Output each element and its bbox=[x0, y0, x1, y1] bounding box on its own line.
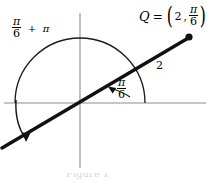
angle-fraction: π 6 bbox=[117, 77, 126, 100]
sweep-denominator: 6 bbox=[12, 27, 21, 39]
point-q-name: Q bbox=[139, 10, 150, 23]
point-q-marker bbox=[185, 33, 192, 40]
polar-coordinate-diagram: π 6 + π Q = ( 2 , π 6 ) π 6 2 Figure 1 bbox=[0, 0, 209, 183]
sweep-pi-term: π bbox=[43, 24, 50, 34]
point-q-label: Q = ( 2 , π 6 ) bbox=[139, 5, 208, 28]
terminal-ray bbox=[2, 37, 190, 148]
point-q-close-paren: ) bbox=[200, 6, 206, 26]
point-q-angle-numerator: π bbox=[189, 4, 198, 15]
caption-strip: Figure 1 bbox=[0, 173, 209, 183]
sweep-operator: + bbox=[25, 24, 39, 34]
point-q-open-paren: ( bbox=[167, 6, 173, 26]
sweep-angle-label: π 6 + π bbox=[12, 17, 49, 40]
angle-numerator: π bbox=[117, 77, 126, 88]
point-q-equals: = bbox=[153, 11, 163, 23]
point-q-coordinates: 2 , π 6 bbox=[175, 5, 199, 28]
angle-denominator: 6 bbox=[117, 88, 126, 100]
radius-label: 2 bbox=[156, 60, 163, 71]
figure-caption: Figure 1 bbox=[66, 173, 109, 179]
sweep-fraction: π 6 bbox=[12, 16, 21, 39]
angle-label: π 6 bbox=[117, 78, 126, 101]
point-q-angle-fraction: π 6 bbox=[189, 4, 198, 27]
point-q-angle-denominator: 6 bbox=[189, 15, 198, 27]
sweep-numerator: π bbox=[12, 16, 21, 27]
point-q-radius: 2 bbox=[175, 11, 184, 22]
